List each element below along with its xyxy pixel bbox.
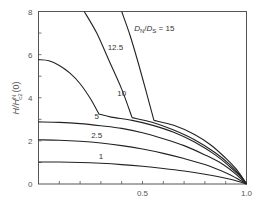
y-axis-label-tail: (0)	[11, 81, 21, 92]
y-axis-label: H/HNc2(0)	[11, 81, 23, 114]
curve-label-12-5: 12.5	[108, 43, 124, 52]
y-tick-label: 8	[28, 8, 33, 17]
curves	[39, 12, 247, 185]
y-tick-label: 0	[28, 180, 33, 189]
y-axis-label-main: H/H	[11, 99, 21, 115]
curve-label-5: 5	[95, 112, 100, 121]
y-tick-label: 2	[28, 137, 33, 146]
y-tick-label: 4	[28, 94, 33, 103]
curve-1	[39, 162, 247, 184]
curve-label-1: 1	[99, 152, 104, 161]
chart: 0.51.0 02468 12.551012.5DN/DS = 15 H/HNc…	[0, 0, 262, 202]
curve-label-2-5: 2.5	[91, 131, 103, 140]
y-axis-label-sub: c2	[17, 93, 23, 100]
x-axis-tick-labels: 0.51.0	[137, 189, 253, 198]
curve-label-15: DN/DS = 15	[134, 24, 175, 34]
y-axis-tick-labels: 02468	[28, 8, 33, 190]
curve-label-10: 10	[117, 89, 126, 98]
y-tick-label: 6	[28, 51, 33, 60]
x-tick-label: 0.5	[137, 189, 149, 198]
curve-12-5	[84, 12, 246, 185]
plot-frame	[39, 12, 247, 185]
x-tick-label: 1.0	[241, 189, 253, 198]
